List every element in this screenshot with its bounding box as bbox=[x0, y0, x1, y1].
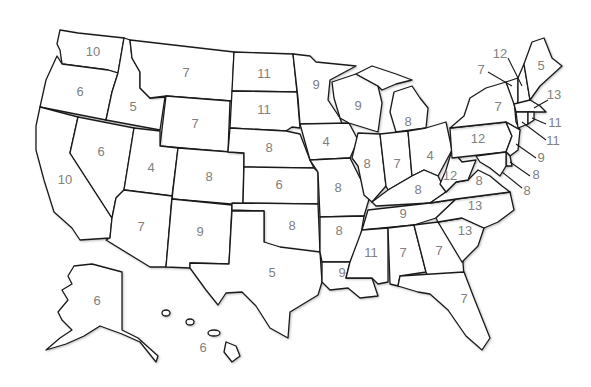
label-or: 6 bbox=[76, 84, 83, 99]
label-la: 9 bbox=[338, 265, 345, 280]
label-ne: 8 bbox=[265, 140, 272, 155]
state-hi-oahu[interactable] bbox=[186, 319, 194, 325]
label-de: 8 bbox=[532, 167, 539, 182]
state-hi-big[interactable] bbox=[224, 342, 240, 362]
label-in: 7 bbox=[393, 156, 400, 171]
label-oh: 4 bbox=[426, 148, 433, 163]
leader-ri bbox=[532, 118, 546, 124]
label-nm: 9 bbox=[196, 224, 203, 239]
label-mi: 8 bbox=[404, 114, 411, 129]
label-ms: 11 bbox=[364, 245, 378, 260]
label-nh: 12 bbox=[493, 46, 507, 61]
label-ar: 8 bbox=[335, 223, 342, 238]
label-md: 8 bbox=[523, 183, 530, 198]
label-ct: 11 bbox=[546, 133, 560, 148]
label-ri: 11 bbox=[548, 115, 562, 130]
label-tn: 9 bbox=[399, 206, 406, 221]
label-fl: 7 bbox=[460, 291, 467, 306]
leader-de bbox=[510, 162, 530, 176]
label-nd: 11 bbox=[257, 66, 271, 81]
label-wa: 10 bbox=[86, 44, 100, 59]
label-ks: 6 bbox=[275, 177, 282, 192]
label-ga: 7 bbox=[435, 243, 442, 258]
label-pa: 12 bbox=[471, 131, 485, 146]
label-ca: 10 bbox=[58, 172, 72, 187]
label-nc: 13 bbox=[468, 198, 482, 213]
label-ny: 7 bbox=[494, 99, 501, 114]
us-map: 10 6 10 5 6 7 7 4 8 7 9 11 11 8 6 8 5 9 … bbox=[0, 0, 591, 387]
leader-ct bbox=[522, 122, 546, 140]
label-me: 5 bbox=[537, 58, 544, 73]
label-mt: 7 bbox=[182, 65, 189, 80]
label-wv: 12 bbox=[443, 168, 457, 183]
label-ut: 4 bbox=[147, 160, 154, 175]
label-mo: 8 bbox=[334, 180, 341, 195]
leader-md bbox=[502, 172, 522, 188]
label-wi: 9 bbox=[354, 98, 361, 113]
state-hi-maui[interactable] bbox=[208, 330, 220, 336]
label-mn: 9 bbox=[312, 77, 319, 92]
label-al: 7 bbox=[399, 245, 406, 260]
state-fl[interactable] bbox=[398, 272, 490, 350]
label-hi: 6 bbox=[199, 340, 206, 355]
label-co: 8 bbox=[205, 169, 212, 184]
label-ia: 4 bbox=[322, 134, 329, 149]
label-ma: 13 bbox=[547, 87, 561, 102]
label-va: 8 bbox=[475, 173, 482, 188]
state-hi-kauai[interactable] bbox=[162, 310, 170, 316]
label-nv: 6 bbox=[97, 144, 104, 159]
leader-nj bbox=[516, 144, 536, 158]
label-ak: 6 bbox=[93, 293, 100, 308]
label-sc: 13 bbox=[458, 223, 472, 238]
label-nj: 9 bbox=[537, 150, 544, 165]
label-ky: 8 bbox=[414, 182, 421, 197]
label-az: 7 bbox=[137, 219, 144, 234]
state-ak[interactable] bbox=[46, 264, 158, 362]
label-wy: 7 bbox=[191, 116, 198, 131]
label-ok: 8 bbox=[288, 218, 295, 233]
label-vt: 7 bbox=[477, 62, 484, 77]
label-tx: 5 bbox=[268, 265, 275, 280]
label-sd: 11 bbox=[257, 102, 271, 117]
label-id: 5 bbox=[129, 99, 136, 114]
label-il: 8 bbox=[363, 156, 370, 171]
